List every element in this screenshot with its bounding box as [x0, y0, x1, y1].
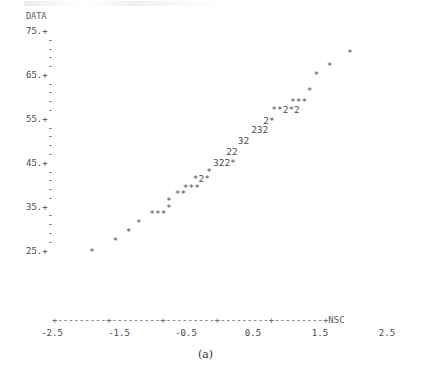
- data-row: *: [313, 70, 319, 80]
- x-tick-label: 2.5: [379, 329, 395, 338]
- scan-artifact: [24, 1, 224, 6]
- data-row: 232: [251, 125, 268, 135]
- figure-panel: DATA 75.+ - - - -65.+ - - - -55.+ - - - …: [0, 0, 427, 374]
- data-row: ***: [149, 209, 166, 219]
- x-tick-label: 0.5: [245, 329, 261, 338]
- x-tick-label: -0.5: [175, 329, 197, 338]
- data-row: *: [126, 227, 132, 237]
- data-row: *: [136, 218, 142, 228]
- x-axis-line: +---------+---------+---------+---------…: [52, 316, 345, 325]
- data-row: *: [89, 247, 95, 257]
- x-tick-label: -1.5: [108, 329, 130, 338]
- x-tick-label: 1.5: [312, 329, 328, 338]
- y-axis-ticks: 75.+ - - - -65.+ - - - -55.+ - - - -45.+…: [26, 27, 53, 255]
- data-row: 32: [238, 136, 249, 146]
- data-row: *: [307, 86, 313, 96]
- data-row: 22: [226, 147, 237, 157]
- x-tick-label: -2.5: [41, 329, 63, 338]
- y-tick-major: 25.+: [26, 247, 53, 256]
- data-row: **2*2: [271, 105, 300, 115]
- data-row: *: [347, 48, 353, 58]
- figure-caption: (a): [198, 348, 213, 361]
- data-row: **: [175, 189, 186, 199]
- data-row: *: [166, 203, 172, 213]
- data-row: *: [327, 61, 333, 71]
- data-row: *: [112, 236, 118, 246]
- y-axis-label: DATA: [26, 12, 46, 21]
- data-row: 322*: [213, 158, 236, 168]
